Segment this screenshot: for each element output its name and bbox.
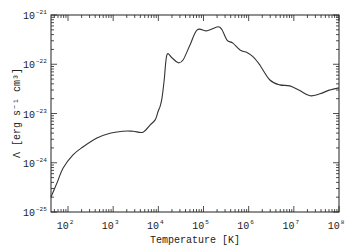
x-tick-label: 102 — [57, 219, 74, 232]
y-tick-labels: 10−2110−2210−2310−2410−25 — [23, 9, 47, 219]
y-tick-label: 10−25 — [23, 206, 47, 219]
y-tick-label: 10−22 — [23, 58, 47, 71]
cooling-curve-line — [51, 27, 339, 197]
plot-frame — [51, 15, 339, 212]
y-tick-label: 10−23 — [23, 108, 47, 121]
x-tick-label: 103 — [102, 219, 119, 232]
x-tick-label: 105 — [192, 219, 209, 232]
axis-ticks — [51, 15, 339, 212]
x-tick-labels: 102103104105106107108 — [57, 219, 345, 232]
x-axis-label: Temperature [K] — [150, 235, 240, 246]
cooling-function-chart: 102103104105106107108 10−2110−2210−2310−… — [0, 0, 356, 250]
x-tick-label: 106 — [237, 219, 254, 232]
x-tick-label: 108 — [328, 219, 345, 232]
x-tick-label: 104 — [147, 219, 164, 232]
y-axis-label: Λ [erg s⁻¹ cm³] — [12, 68, 23, 158]
y-tick-label: 10−21 — [23, 9, 47, 22]
x-tick-label: 107 — [283, 219, 300, 232]
y-tick-label: 10−24 — [23, 157, 47, 170]
